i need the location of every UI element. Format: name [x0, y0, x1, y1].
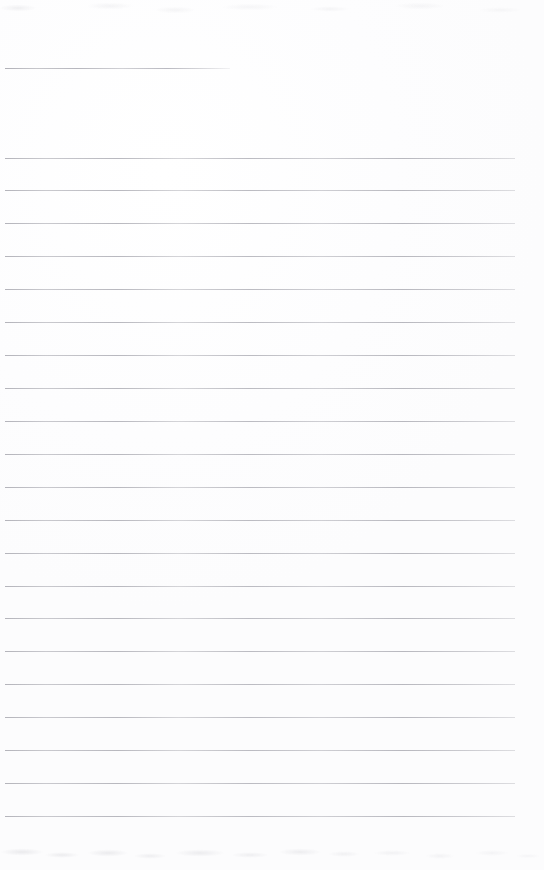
ruled-line — [5, 586, 515, 587]
ruled-line — [5, 487, 515, 488]
ruled-line — [5, 223, 515, 224]
ruled-line — [5, 553, 515, 554]
ruled-line — [5, 454, 515, 455]
ruled-line — [5, 520, 515, 521]
ruled-line — [5, 618, 515, 619]
ruled-lines-group — [0, 0, 544, 870]
ruled-line — [5, 421, 515, 422]
ruled-line — [5, 816, 515, 817]
ruled-line — [5, 388, 515, 389]
ruled-line — [5, 684, 515, 685]
ruled-line — [5, 717, 515, 718]
ruled-line — [5, 256, 515, 257]
ruled-line — [5, 750, 515, 751]
scanned-page — [0, 0, 544, 870]
ruled-line — [5, 190, 515, 191]
ruled-line — [5, 783, 515, 784]
ruled-line — [5, 158, 515, 159]
ruled-line — [5, 651, 515, 652]
ruled-line — [5, 322, 515, 323]
ruled-line-partial — [5, 68, 230, 69]
ruled-line — [5, 355, 515, 356]
ruled-line — [5, 289, 515, 290]
